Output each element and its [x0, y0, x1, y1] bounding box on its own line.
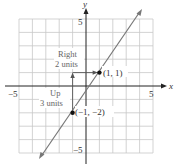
point-label-neg1-neg2: (−1, −2)	[75, 107, 105, 117]
y-axis-label: y	[82, 0, 87, 9]
tick-y-pos5: 5	[78, 17, 83, 27]
x-axis-label: x	[168, 81, 173, 91]
tick-x-neg5: −5	[8, 89, 18, 99]
up-label-line1: Up	[50, 88, 60, 98]
up-arrowhead-icon	[70, 73, 74, 78]
tick-y-neg5: −5	[73, 145, 83, 155]
point-label-1-1: (1, 1)	[103, 68, 123, 78]
right-arrow	[73, 70, 98, 74]
right-label-line1: Right	[58, 49, 78, 59]
x-axis-arrow-icon	[161, 84, 167, 89]
up-label-line2: 3 units	[40, 98, 63, 108]
tick-x-pos5: 5	[149, 89, 154, 99]
coordinate-graph: x y −5 5 5 −5 (1, 1) (−1, −2) Right 2 un…	[0, 0, 175, 166]
right-label-line2: 2 units	[55, 59, 78, 69]
point-1-1	[97, 70, 101, 74]
